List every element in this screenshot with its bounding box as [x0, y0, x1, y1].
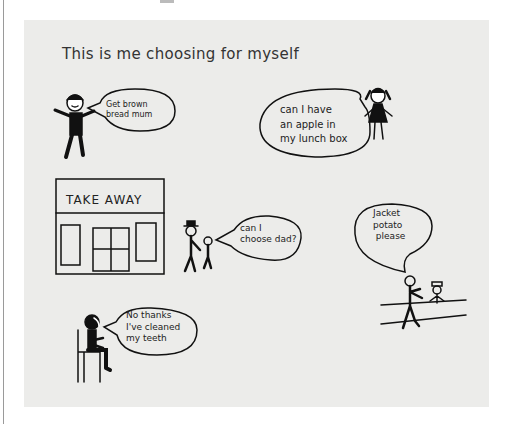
takeaway-sign: TAKE AWAY: [66, 193, 142, 208]
speech-text-apple: can I have an apple in my lunch box: [280, 103, 347, 147]
server-figure: [430, 282, 444, 303]
speech-text-brown-bread: Get brown bread mum: [106, 100, 152, 120]
seated-figure: [78, 315, 110, 382]
boy-figure: [55, 95, 94, 157]
speech-text-no-thanks: No thanks I've cleaned my teeth: [126, 310, 180, 345]
speech-text-choose-dad: can I choose dad?: [240, 223, 296, 246]
father-and-child: [184, 221, 212, 271]
illustration-title: This is me choosing for myself: [62, 45, 299, 64]
counter-lines: [381, 300, 466, 324]
speech-text-jacket-potato: Jacket potato please: [373, 208, 405, 243]
